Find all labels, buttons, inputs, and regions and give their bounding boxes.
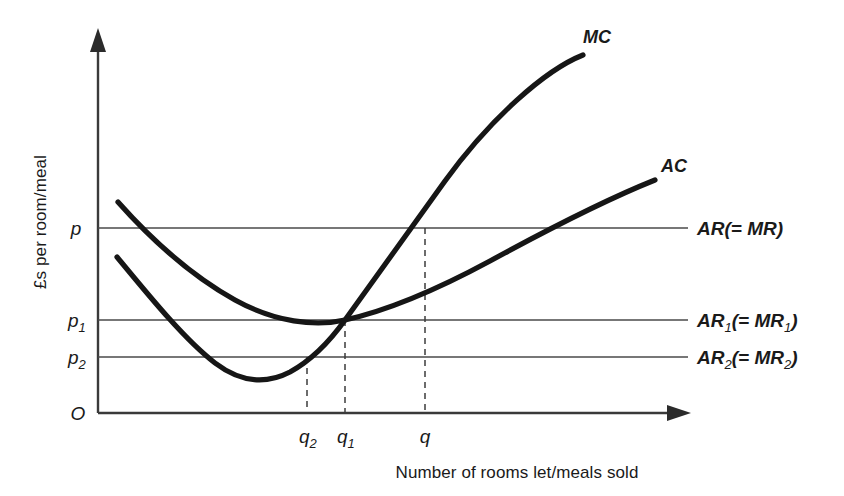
y-tick-p2: p2 <box>67 347 87 372</box>
y-tick-p: p <box>70 218 82 239</box>
ac-curve <box>118 180 655 323</box>
x-tick-q1: q1 <box>337 426 355 451</box>
ar2-line-label: AR2(= MR2) <box>696 347 798 372</box>
x-axis-arrow-icon <box>667 405 691 421</box>
y-axis-arrow-icon <box>90 28 106 52</box>
y-axis-title: £s per room/meal <box>31 155 50 289</box>
cost-revenue-chart: MC AC AR(= MR) AR1(= MR1) AR2(= MR2) p p… <box>0 0 844 496</box>
y-tick-p1: p1 <box>67 310 86 335</box>
cost-curves-group <box>117 55 655 380</box>
x-tick-q2: q2 <box>299 426 318 451</box>
mc-curve <box>117 55 583 380</box>
x-axis-title: Number of rooms let/meals sold <box>396 463 639 482</box>
chart-canvas: MC AC AR(= MR) AR1(= MR1) AR2(= MR2) p p… <box>0 0 844 496</box>
axes-group <box>90 28 691 421</box>
ar1-line-label: AR1(= MR1) <box>696 310 798 335</box>
x-tick-q: q <box>420 426 431 447</box>
ac-curve-label: AC <box>660 156 688 176</box>
origin-label: O <box>71 403 86 424</box>
ar-line-label: AR(= MR) <box>696 218 783 239</box>
mc-curve-label: MC <box>583 27 612 47</box>
